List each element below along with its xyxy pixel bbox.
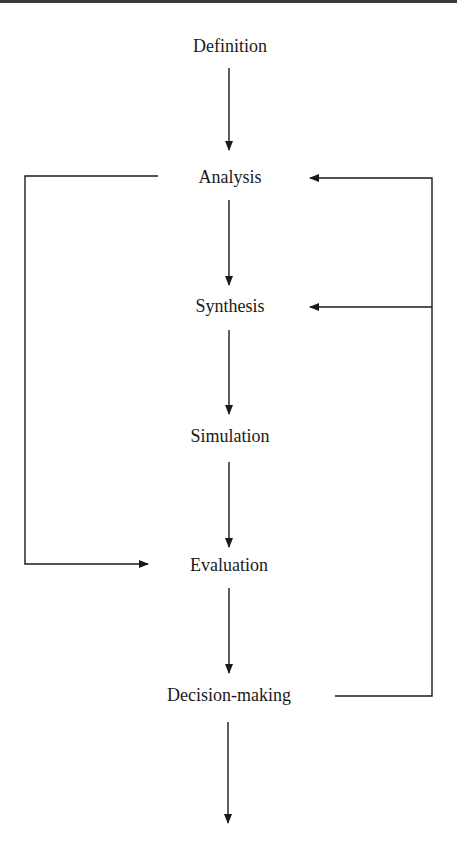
node-decision-making: Decision-making: [167, 685, 291, 706]
feedback-analysis-to-evaluation: [25, 176, 158, 564]
node-definition: Definition: [193, 36, 267, 57]
node-synthesis: Synthesis: [195, 296, 264, 317]
node-simulation: Simulation: [190, 426, 269, 447]
node-evaluation: Evaluation: [190, 555, 268, 576]
feedback-decision-to-analysis: [310, 178, 432, 696]
node-analysis: Analysis: [199, 167, 262, 188]
